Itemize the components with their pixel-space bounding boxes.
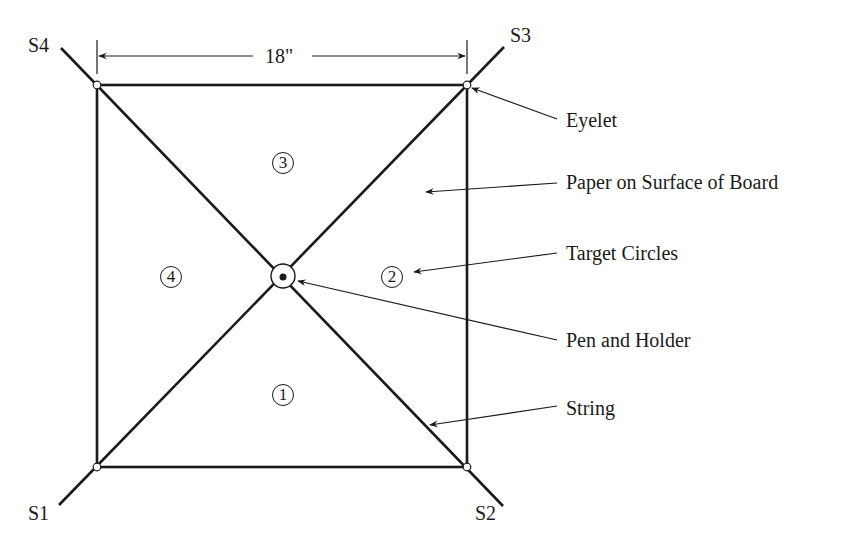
eyelet-s1 <box>93 463 101 471</box>
corner-label-s2: S2 <box>475 503 496 523</box>
region-4: 4 <box>160 266 182 288</box>
eyelet-s4 <box>93 81 101 89</box>
region-1: 1 <box>272 384 294 406</box>
eyelet-s3 <box>463 81 471 89</box>
pen-tip <box>280 274 287 281</box>
pen-arrow <box>298 281 557 340</box>
eyelet-arrow <box>472 88 557 119</box>
corner-label-s1: S1 <box>28 503 49 523</box>
callout-string: String <box>566 398 615 418</box>
callout-eyelet: Eyelet <box>566 110 617 130</box>
region-3: 3 <box>272 152 294 174</box>
eyelet-s2 <box>463 463 471 471</box>
corner-label-s3: S3 <box>510 25 531 45</box>
diagram-canvas <box>0 0 848 547</box>
paper-arrow <box>426 183 557 192</box>
string-arrow <box>430 406 557 425</box>
callout-pen-holder: Pen and Holder <box>566 330 690 350</box>
callout-paper: Paper on Surface of Board <box>566 172 778 192</box>
region-2: 2 <box>381 266 403 288</box>
dimension-label: 18" <box>265 46 293 66</box>
corner-label-s4: S4 <box>28 35 49 55</box>
callout-target-circles: Target Circles <box>566 243 678 263</box>
target-arrow <box>414 253 557 272</box>
